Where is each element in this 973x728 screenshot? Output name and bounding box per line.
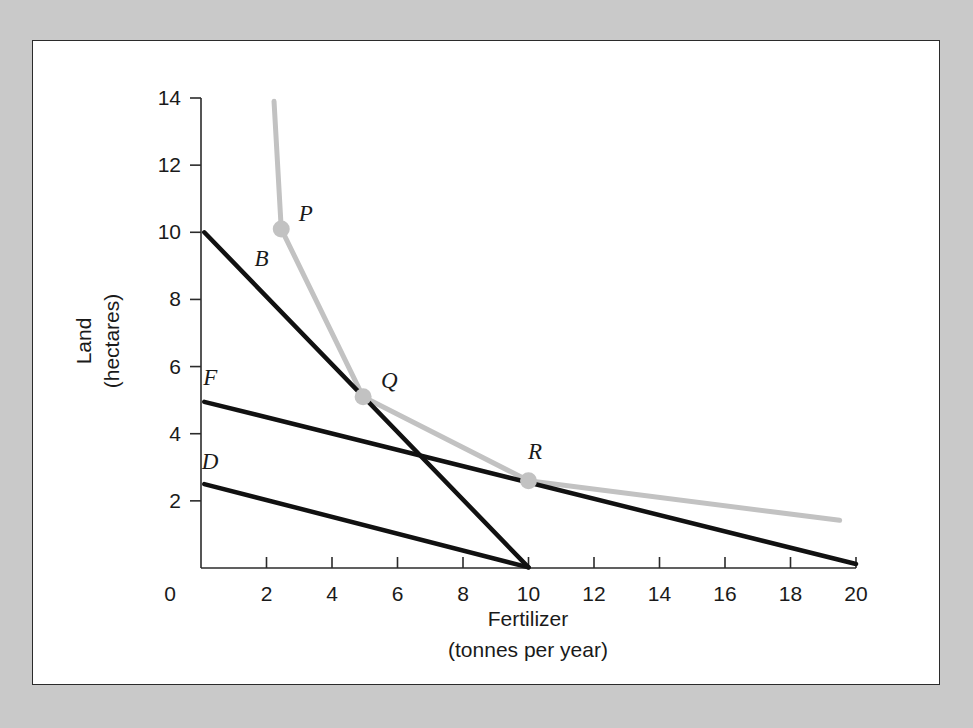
- y-tick-label: 4: [169, 422, 181, 445]
- curve-label-F: F: [202, 365, 218, 390]
- x-tick-label: 6: [392, 582, 404, 605]
- data-series-layer: [204, 101, 856, 567]
- curve-label-D: D: [201, 449, 219, 474]
- x-tick-label: 4: [326, 582, 338, 605]
- x-tick-label: 0: [164, 582, 176, 605]
- y-tick-label: 6: [169, 355, 181, 378]
- point-label-P: P: [298, 201, 313, 226]
- x-tick-label: 18: [779, 582, 802, 605]
- marker-point-Q: [355, 388, 372, 405]
- fertilizer-land-isoquant-chart: 2468101214 02468101214161820 BFD PQR Fer…: [33, 41, 941, 686]
- point-label-Q: Q: [381, 368, 398, 393]
- y-tick-label: 8: [169, 287, 181, 310]
- curve-labels-layer: BFD: [201, 246, 269, 474]
- series-line-D: [204, 484, 528, 567]
- y-axis-ticks: 2468101214: [158, 86, 201, 512]
- marker-point-P: [273, 220, 290, 237]
- marker-point-R: [520, 472, 537, 489]
- point-label-R: R: [527, 439, 542, 464]
- y-axis-title: Land: [72, 318, 95, 365]
- x-tick-label: 20: [844, 582, 867, 605]
- x-tick-label: 16: [713, 582, 736, 605]
- x-tick-label: 2: [261, 582, 273, 605]
- y-axis-subtitle: (hectares): [100, 294, 123, 389]
- x-tick-label: 12: [582, 582, 605, 605]
- y-tick-label: 14: [158, 86, 182, 109]
- series-line-isoquant: [274, 101, 840, 520]
- curve-label-B: B: [255, 246, 269, 271]
- x-axis-title: Fertilizer: [488, 607, 569, 630]
- y-tick-label: 2: [169, 489, 181, 512]
- y-tick-label: 12: [158, 153, 181, 176]
- x-tick-label: 14: [648, 582, 672, 605]
- x-tick-label: 8: [457, 582, 469, 605]
- x-tick-label: 10: [517, 582, 540, 605]
- x-axis-subtitle: (tonnes per year): [448, 638, 608, 661]
- y-tick-label: 10: [158, 220, 181, 243]
- marker-points-layer: [273, 220, 537, 489]
- figure-panel: 2468101214 02468101214161820 BFD PQR Fer…: [32, 40, 940, 685]
